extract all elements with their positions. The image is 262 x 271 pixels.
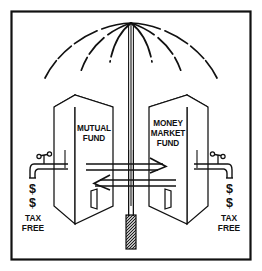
faucet-left-knob-a [37,154,41,158]
mutual-fund-door [91,189,97,209]
faucet-left-caption-free: FREE [22,223,45,233]
faucet-left-nozzle-inner [35,169,38,178]
umbrella-rib-6 [131,23,217,78]
faucet-right-nozzle-inner [224,169,227,178]
faucet-left-nozzle-outer [30,164,34,178]
umbrella-rib-4 [131,23,152,62]
faucet-right-dollar-2: $ [226,196,233,210]
mutual-fund-label-line2: FUND [83,134,106,143]
money-market-label-line2: MARKET [151,129,186,138]
money-market-door [165,189,171,209]
money-market-label-line1: MONEY [153,119,183,128]
money-market-roof [149,95,208,107]
building-money-market-fund: MONEY MARKET FUND [149,95,208,224]
umbrella-rib-3 [110,23,131,62]
money-market-label-line3: FUND [157,139,180,148]
building-mutual-fund: MUTUAL FUND [54,95,113,224]
faucet-right-dollar-1: $ [226,182,233,196]
faucet-right-knob-a [221,154,225,158]
illustration-root: MUTUAL FUND MONEY MARKET FUND [0,0,262,271]
faucet-left-knob-b [47,152,51,156]
faucet-right-nozzle-outer [228,164,232,178]
umbrella-funds-diagram: MUTUAL FUND MONEY MARKET FUND [0,0,262,271]
umbrella-handle-grip [126,215,136,249]
faucet-right-knob-b [210,152,214,156]
mutual-fund-label-line1: MUTUAL [77,124,111,133]
faucet-left-caption-tax: TAX [25,213,42,223]
umbrella-shaft [129,23,134,230]
faucet-left-dollar-1: $ [29,182,36,196]
mutual-fund-roof [54,95,113,107]
faucet-left-dollar-2: $ [29,196,36,210]
umbrella-rib-1 [45,23,131,78]
faucet-right-caption-tax: TAX [221,213,238,223]
faucet-right-caption-free: FREE [218,223,241,233]
